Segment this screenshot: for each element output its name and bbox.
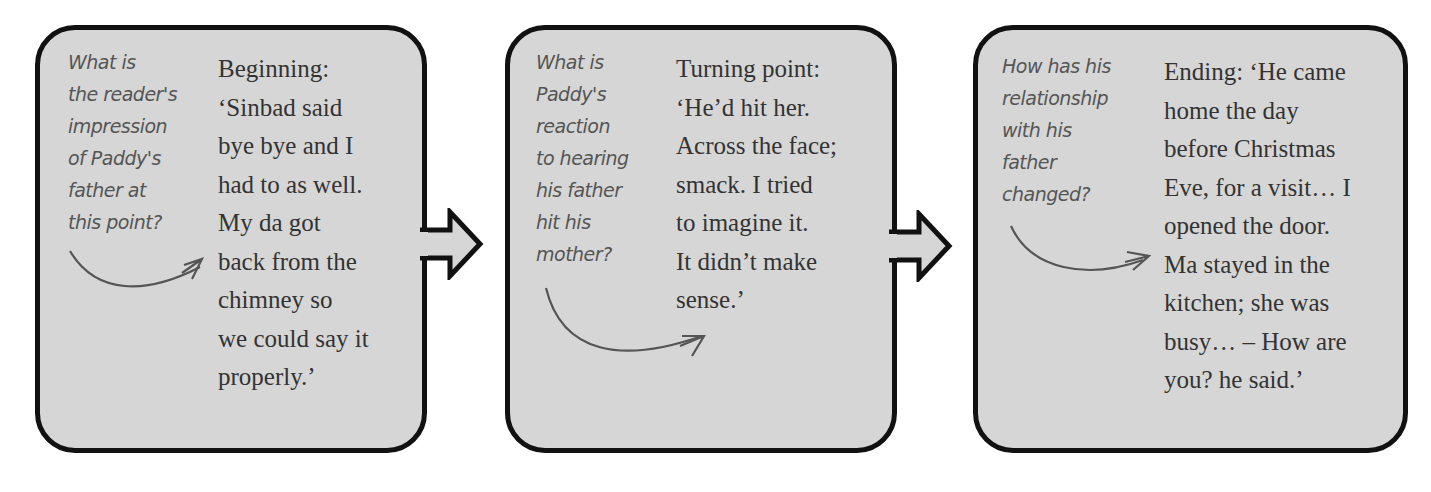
- quote-line: smack. I tried: [676, 166, 837, 205]
- quote-line: Across the face;: [676, 127, 837, 166]
- quote-line: Beginning:: [218, 50, 369, 89]
- question-line: How has his: [1002, 50, 1111, 82]
- quote-line: to imagine it.: [676, 204, 837, 243]
- quote-line: Ending: ‘He came: [1164, 53, 1351, 92]
- quote-line: before Christmas: [1164, 130, 1351, 169]
- quote-line: Turning point:: [676, 50, 837, 89]
- question-line: What is: [536, 46, 629, 78]
- question-line: mother?: [536, 238, 629, 270]
- question-line: relationship: [1002, 82, 1111, 114]
- curved-arrow-icon: [1007, 222, 1157, 284]
- quote-ending: Ending: ‘He came home the day before Chr…: [1164, 53, 1351, 400]
- quote-line: It didn’t make: [676, 243, 837, 282]
- quote-line: My da got: [218, 204, 369, 243]
- question-line: changed?: [1002, 178, 1111, 210]
- quote-line: Eve, for a visit… I: [1164, 169, 1351, 208]
- question-line: father at: [68, 174, 177, 206]
- question-line: his father: [536, 174, 629, 206]
- question-line: to hearing: [536, 142, 629, 174]
- question-line: Paddy's: [536, 78, 629, 110]
- quote-line: you? he said.’: [1164, 361, 1351, 400]
- quote-line: bye bye and I: [218, 127, 369, 166]
- quote-line: we could say it: [218, 320, 369, 359]
- quote-line: had to as well.: [218, 166, 369, 205]
- question-line: this point?: [68, 206, 177, 238]
- quote-line: home the day: [1164, 92, 1351, 131]
- question-turning-point: What is Paddy's reaction to hearing his …: [536, 46, 629, 270]
- quote-line: Ma stayed in the: [1164, 246, 1351, 285]
- question-line: the reader's: [68, 78, 177, 110]
- quote-line: back from the: [218, 243, 369, 282]
- quote-line: ‘He’d hit her.: [676, 89, 837, 128]
- question-line: What is: [68, 46, 177, 78]
- question-line: father: [1002, 146, 1111, 178]
- quote-turning-point: Turning point: ‘He’d hit her. Across the…: [676, 50, 837, 320]
- right-arrow-icon: [889, 210, 954, 282]
- quote-line: kitchen; she was: [1164, 284, 1351, 323]
- question-line: impression: [68, 110, 177, 142]
- quote-line: ‘Sinbad said: [218, 89, 369, 128]
- curved-arrow-icon: [66, 245, 216, 305]
- question-ending: How has his relationship with his father…: [1002, 50, 1111, 210]
- question-line: of Paddy's: [68, 142, 177, 174]
- quote-line: properly.’: [218, 358, 369, 397]
- quote-line: busy… – How are: [1164, 323, 1351, 362]
- question-line: hit his: [536, 206, 629, 238]
- question-line: reaction: [536, 110, 629, 142]
- quote-line: sense.’: [676, 281, 837, 320]
- quote-line: opened the door.: [1164, 207, 1351, 246]
- question-line: with his: [1002, 114, 1111, 146]
- question-beginning: What is the reader's impression of Paddy…: [68, 46, 177, 238]
- right-arrow-icon: [420, 208, 485, 280]
- quote-line: chimney so: [218, 281, 369, 320]
- quote-beginning: Beginning: ‘Sinbad said bye bye and I ha…: [218, 50, 369, 397]
